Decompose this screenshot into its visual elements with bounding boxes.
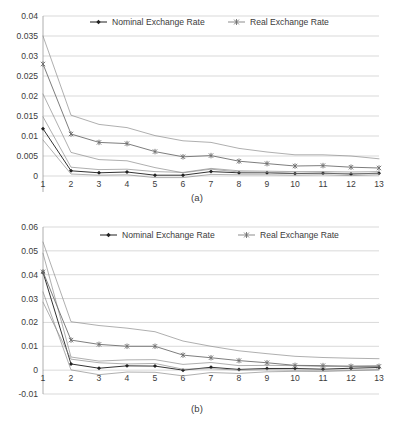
cross-marker-icon (41, 61, 45, 67)
legend-label-real: Real Exchange Rate (260, 230, 339, 240)
caption-a: (a) (0, 192, 394, 203)
legend-item-real: Real Exchange Rate (238, 230, 339, 240)
x-tick-label: 11 (319, 179, 328, 189)
figure-impulse-response: 0.040.0350.030.0250.020.0150.010.0050-0.… (0, 0, 394, 423)
x-tick-label: 7 (209, 179, 214, 189)
cross-marker-icon (41, 269, 45, 275)
series-path-nominal-lower-band (43, 292, 379, 376)
y-tick-label: 0 (33, 171, 38, 181)
x-tick-label: 3 (97, 179, 102, 189)
y-tick-label: 0.02 (21, 317, 38, 327)
x-tick-label: 10 (290, 179, 300, 189)
y-tick-label: 0.005 (16, 151, 38, 161)
diamond-marker-icon (125, 170, 129, 174)
y-tick-label: 0.035 (16, 31, 38, 41)
x-tick-label: 7 (209, 373, 214, 383)
x-tick-label: 4 (125, 373, 130, 383)
x-tick-label: 2 (69, 373, 74, 383)
chart-a-canvas: 0.040.0350.030.0250.020.0150.010.0050-0.… (0, 0, 394, 192)
x-tick-label: 13 (374, 179, 384, 189)
x-tick-label: 1 (41, 179, 46, 189)
x-tick-label: 8 (237, 373, 242, 383)
legend-item-nominal: Nominal Exchange Rate (90, 17, 205, 27)
x-tick-label: 13 (374, 373, 384, 383)
x-tick-label: 8 (237, 179, 242, 189)
x-tick-label: 1 (41, 373, 46, 383)
series-path-real-upper-band (43, 242, 379, 359)
diamond-marker-icon (209, 170, 213, 174)
caption-b: (b) (0, 403, 394, 414)
x-tick-label: 11 (319, 373, 328, 383)
x-tick-label: 10 (290, 373, 300, 383)
x-tick-label: 9 (265, 179, 270, 189)
diamond-marker-icon (153, 364, 157, 368)
diamond-marker-icon (125, 364, 129, 368)
diamond-marker-icon (181, 173, 185, 177)
x-tick-label: 5 (153, 179, 158, 189)
series-path-real-exchange-rate (43, 272, 379, 366)
y-tick-label: 0.01 (21, 131, 38, 141)
chart-panel-b: 0.060.050.040.030.020.010-0.011234567891… (0, 212, 394, 423)
y-tick-label: 0.03 (21, 294, 38, 304)
y-tick-label: 0.015 (16, 111, 38, 121)
y-tick-label: 0.01 (21, 341, 38, 351)
y-tick-label: 0.03 (21, 51, 38, 61)
y-tick-label: 0 (33, 365, 38, 375)
y-tick-label: 0.04 (21, 270, 38, 280)
diamond-marker-icon (106, 233, 110, 237)
chart-panel-a: 0.040.0350.030.0250.020.0150.010.0050-0.… (0, 0, 394, 212)
diamond-marker-icon (153, 173, 157, 177)
diamond-marker-icon (96, 20, 100, 24)
diamond-marker-icon (97, 366, 101, 370)
x-tick-label: 6 (181, 373, 186, 383)
x-tick-label: 9 (265, 373, 270, 383)
legend-item-nominal: Nominal Exchange Rate (100, 230, 215, 240)
y-tick-label: 0.05 (21, 246, 38, 256)
y-tick-label: -0.01 (18, 389, 38, 399)
legend-label-real: Real Exchange Rate (250, 17, 329, 27)
series-path-real-lower-band (43, 94, 379, 174)
y-tick-label: 0.02 (21, 91, 38, 101)
x-tick-label: 12 (346, 373, 356, 383)
series-path-nominal-upper-band (43, 253, 379, 366)
x-tick-label: 5 (153, 373, 158, 383)
legend-label-nominal: Nominal Exchange Rate (122, 230, 215, 240)
legend-label-nominal: Nominal Exchange Rate (112, 17, 205, 27)
y-tick-label: 0.04 (21, 11, 38, 21)
x-tick-label: 4 (125, 179, 130, 189)
y-tick-label: 0.025 (16, 71, 38, 81)
diamond-marker-icon (237, 171, 241, 175)
diamond-marker-icon (237, 367, 241, 371)
diamond-marker-icon (97, 171, 101, 175)
x-tick-label: 12 (346, 179, 356, 189)
chart-b-canvas: 0.060.050.040.030.020.010-0.011234567891… (0, 212, 394, 403)
y-tick-label: 0.06 (21, 222, 38, 232)
series-path-nominal-upper-band (43, 117, 379, 173)
x-tick-label: 2 (69, 179, 74, 189)
x-tick-label: 6 (181, 179, 186, 189)
legend-item-real: Real Exchange Rate (228, 17, 329, 27)
